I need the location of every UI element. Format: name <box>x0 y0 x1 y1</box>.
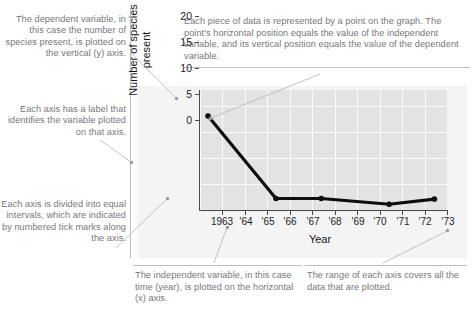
top-annotation-rule <box>184 67 470 68</box>
gridline-vertical <box>425 90 426 210</box>
y-axis-tick-label: 15 <box>170 36 192 48</box>
y-axis-title-text: Number of species present <box>127 4 152 96</box>
y-axis-line <box>199 90 200 211</box>
y-axis-tick <box>195 120 199 121</box>
x-axis-tick <box>267 211 268 215</box>
y-axis-tick-label: 5 <box>170 88 192 100</box>
annotation-axis-label: Each axis has a label that identifies th… <box>0 104 126 138</box>
gridline-horizontal <box>200 184 447 185</box>
leader-line-axis-label <box>100 140 131 162</box>
y-axis-tick <box>195 42 199 43</box>
x-axis-tick <box>290 211 291 215</box>
x-axis-tick <box>312 211 313 215</box>
gridline-vertical <box>222 90 223 210</box>
bottom-left-annotation-rule <box>133 265 302 266</box>
x-axis-tick <box>357 211 358 215</box>
y-axis-title: Number of species present <box>127 0 153 100</box>
gridline-vertical <box>335 90 336 210</box>
y-axis-tick-label: 10 <box>170 62 192 74</box>
annotation-axis-range: The range of each axis covers all the da… <box>307 270 467 293</box>
gridline-vertical <box>290 90 291 210</box>
gridline-vertical <box>312 90 313 210</box>
x-axis-title: Year <box>260 233 380 245</box>
bottom-right-annotation-rule <box>305 265 467 266</box>
y-axis-tick-label: 20 <box>170 10 192 22</box>
gridline-vertical <box>357 90 358 210</box>
gridline-horizontal <box>200 158 447 159</box>
gridline-vertical <box>245 90 246 210</box>
x-axis-tick <box>402 211 403 215</box>
x-axis-tick <box>380 211 381 215</box>
x-axis-tick-label: '73 <box>432 216 464 227</box>
gridline-vertical <box>380 90 381 210</box>
x-axis-tick <box>222 211 223 215</box>
annotation-independent-variable: The independent variable, in this case t… <box>135 270 305 305</box>
y-axis-tick <box>195 16 199 17</box>
plot-area <box>200 90 447 210</box>
y-axis-tick <box>195 94 199 95</box>
gridline-vertical <box>402 90 403 210</box>
x-axis-tick <box>425 211 426 215</box>
x-axis-tick <box>335 211 336 215</box>
y-axis-tick-label: 0 <box>170 114 192 126</box>
gridline-horizontal <box>200 106 447 107</box>
x-axis-line <box>199 210 448 211</box>
figure-root: The dependent variable, in this case the… <box>0 0 472 318</box>
gridline-horizontal <box>200 132 447 133</box>
annotation-equal-intervals: Each axis is divided into equal interval… <box>0 199 126 245</box>
x-axis-tick <box>245 211 246 215</box>
annotation-data-point: Each piece of data is represented by a p… <box>184 16 470 62</box>
x-axis-tick <box>447 211 448 215</box>
annotation-dependent-variable: The dependent variable, in this case the… <box>0 14 126 60</box>
y-axis-tick <box>195 68 199 69</box>
gridline-vertical <box>267 90 268 210</box>
